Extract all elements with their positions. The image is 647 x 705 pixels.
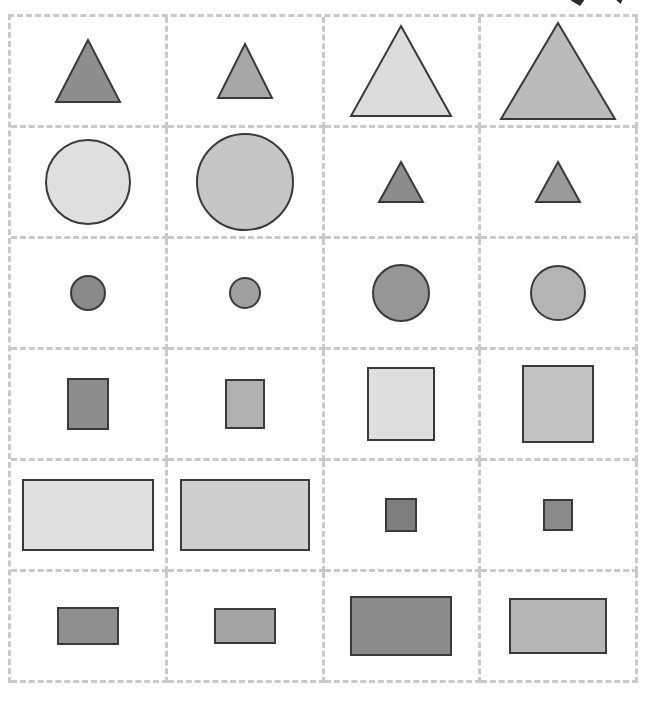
grid-cell-r1-c3	[325, 17, 482, 128]
rectangle-small-mid	[212, 606, 278, 646]
circle-large-light	[43, 137, 133, 227]
grid-cell-r3-c4	[481, 239, 638, 350]
grid-cell-r1-c4	[481, 17, 638, 128]
rectangle-wide-light	[20, 477, 156, 553]
grid-cell-r4-c2	[168, 350, 325, 461]
circle-glyph	[227, 275, 263, 311]
square-small-mid	[223, 377, 267, 431]
rect-glyph	[383, 496, 419, 534]
grid-cell-r2-c4	[481, 128, 638, 239]
grid-cell-r6-c2	[168, 572, 325, 683]
grid-cell-r2-c3	[325, 128, 482, 239]
grid-cell-r5-c2	[168, 461, 325, 572]
circle-glyph	[43, 137, 133, 227]
circle-medium-mid	[528, 263, 588, 323]
circle-glyph	[370, 262, 432, 324]
circle-medium-dark	[370, 262, 432, 324]
rect-glyph	[65, 376, 111, 432]
rect-glyph	[178, 477, 312, 553]
square-large-light	[365, 365, 437, 443]
grid-cell-r5-c1	[11, 461, 168, 572]
square-tiny-dark	[383, 496, 419, 534]
triangle-glyph	[53, 37, 123, 105]
triangle-small-dark	[53, 37, 123, 105]
grid-cell-r1-c1	[11, 17, 168, 128]
triangle-large-mid	[498, 20, 618, 122]
circle-large-mid	[194, 131, 296, 233]
rect-glyph	[520, 363, 596, 445]
triangle-tiny-dark	[376, 159, 426, 205]
stimulus-canvas	[0, 0, 647, 705]
triangle-glyph	[348, 23, 454, 119]
grid-cell-r3-c2	[168, 239, 325, 350]
rect-glyph	[212, 606, 278, 646]
grid-cell-r2-c1	[11, 128, 168, 239]
circle-tiny-dark	[68, 273, 108, 313]
square-small-dark	[65, 376, 111, 432]
cut-off-dark-mark-right-icon	[612, 0, 626, 4]
rectangle-small-dark	[55, 605, 121, 647]
triangle-large-light	[348, 23, 454, 119]
grid-cell-r6-c1	[11, 572, 168, 683]
square-large-mid	[520, 363, 596, 445]
circle-glyph	[68, 273, 108, 313]
triangle-glyph	[533, 159, 583, 205]
rectangle-large-mid	[507, 596, 609, 656]
grid-cell-r4-c1	[11, 350, 168, 461]
triangle-tiny-mid	[533, 159, 583, 205]
rectangle-wide-mid	[178, 477, 312, 553]
grid-cell-r5-c4	[481, 461, 638, 572]
shape-grid	[8, 14, 638, 683]
circle-tiny-mid	[227, 275, 263, 311]
rect-glyph	[365, 365, 437, 443]
grid-cell-r6-c3	[325, 572, 482, 683]
grid-cell-r4-c3	[325, 350, 482, 461]
rect-glyph	[507, 596, 609, 656]
rectangle-large-dark	[348, 594, 454, 658]
triangle-glyph	[215, 41, 275, 101]
cut-off-dark-mark-left-icon	[568, 0, 590, 6]
square-tiny-mid	[541, 497, 575, 533]
grid-cell-r5-c3	[325, 461, 482, 572]
rect-glyph	[20, 477, 156, 553]
circle-glyph	[528, 263, 588, 323]
triangle-glyph	[498, 20, 618, 122]
grid-cell-r4-c4	[481, 350, 638, 461]
grid-cell-r2-c2	[168, 128, 325, 239]
rect-glyph	[541, 497, 575, 533]
grid-cell-r1-c2	[168, 17, 325, 128]
grid-cell-r3-c1	[11, 239, 168, 350]
grid-cell-r6-c4	[481, 572, 638, 683]
triangle-small-mid	[215, 41, 275, 101]
rect-glyph	[223, 377, 267, 431]
triangle-glyph	[376, 159, 426, 205]
circle-glyph	[194, 131, 296, 233]
grid-cell-r3-c3	[325, 239, 482, 350]
rect-glyph	[55, 605, 121, 647]
rect-glyph	[348, 594, 454, 658]
